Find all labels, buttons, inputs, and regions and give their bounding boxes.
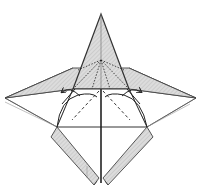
origami-diagram [0, 0, 203, 189]
top-flap [73, 14, 129, 89]
lower-body [57, 89, 147, 183]
